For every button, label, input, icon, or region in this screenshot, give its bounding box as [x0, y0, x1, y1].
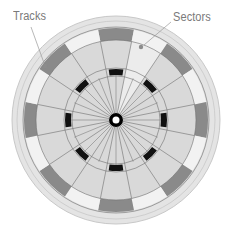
- tracks-pointer-dot-icon: [43, 64, 47, 68]
- sectors-pointer-dot-icon: [139, 45, 143, 49]
- tracks-label: Tracks: [13, 9, 46, 23]
- outer-track-segment: [24, 102, 38, 138]
- spindle-hub: [109, 113, 123, 127]
- inner-track-segment: [109, 165, 124, 171]
- outer-track-segment: [98, 28, 134, 42]
- inner-track-segment: [65, 113, 71, 128]
- inner-track-segment: [161, 113, 167, 128]
- inner-track-segment: [109, 69, 124, 75]
- hard-disk-diagram: [0, 0, 225, 237]
- sectors-label: Sectors: [173, 10, 211, 24]
- spindle-hole: [113, 117, 120, 124]
- outer-track-segment: [194, 102, 208, 138]
- outer-track-segment: [98, 198, 134, 212]
